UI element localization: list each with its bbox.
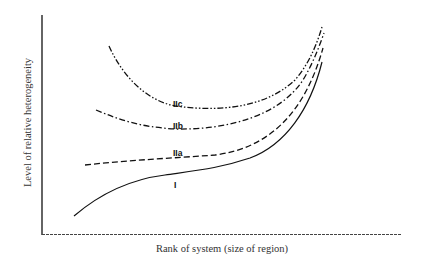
curve-label-IIc: IIc [173, 99, 183, 109]
curve-label-I: I [174, 180, 176, 190]
curve-I [74, 62, 322, 216]
chart-canvas: IIc IIb IIa I [0, 0, 427, 258]
curve-label-IIb: IIb [173, 121, 183, 131]
y-axis-label: Level of relative heterogeneity [22, 38, 33, 208]
curve-IIa [85, 48, 323, 165]
curve-IIc [109, 27, 322, 108]
curve-label-IIa: IIa [173, 148, 183, 158]
x-axis-label: Rank of system (size of region) [100, 243, 344, 254]
